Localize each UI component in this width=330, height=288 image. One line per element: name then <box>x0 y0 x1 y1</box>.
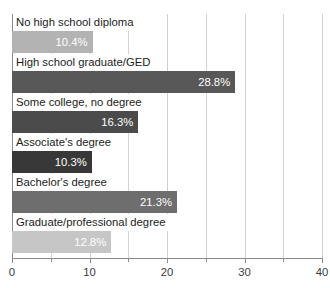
category-label: Graduate/professional degree <box>15 214 168 231</box>
plot-area: No high school diploma10.4%High school g… <box>12 14 322 258</box>
bar-value-label: 10.3% <box>55 151 87 173</box>
tick-label-20: 20 <box>161 266 174 278</box>
bar-row: High school graduate/GED28.8% <box>12 54 322 94</box>
bar-row: Some college, no degree16.3% <box>12 94 322 134</box>
tick-0 <box>12 258 13 263</box>
bar-row: Associate's degree10.3% <box>12 134 322 174</box>
bar-value-label: 16.3% <box>101 111 133 133</box>
category-label: Bachelor's degree <box>15 174 110 191</box>
bar-value-label: 28.8% <box>198 71 230 93</box>
bar-value-label: 21.3% <box>140 191 172 213</box>
tick-label-10: 10 <box>83 266 96 278</box>
tick-20 <box>167 258 168 263</box>
tick-40 <box>322 258 323 263</box>
bar-chart: No high school diploma10.4%High school g… <box>0 0 330 288</box>
category-label: No high school diploma <box>15 14 136 31</box>
tick-30 <box>245 258 246 263</box>
bar: 21.3% <box>12 191 177 213</box>
tick-label-40: 40 <box>316 266 329 278</box>
tick-10 <box>90 258 91 263</box>
category-label: Associate's degree <box>15 134 114 151</box>
bar-value-label: 10.4% <box>56 31 88 53</box>
bar-row: Graduate/professional degree12.8% <box>12 214 322 254</box>
tick-label-0: 0 <box>9 266 15 278</box>
tick-15 <box>128 258 129 262</box>
bar: 16.3% <box>12 111 138 133</box>
bar-value-label: 12.8% <box>74 231 106 253</box>
bar: 10.3% <box>12 151 92 173</box>
tick-label-30: 30 <box>238 266 251 278</box>
bar: 12.8% <box>12 231 111 253</box>
tick-25 <box>206 258 207 262</box>
x-axis: 010203040 <box>12 258 322 288</box>
category-label: High school graduate/GED <box>15 54 153 71</box>
bar: 28.8% <box>12 71 235 93</box>
bar-row: No high school diploma10.4% <box>12 14 322 54</box>
category-label: Some college, no degree <box>15 94 145 111</box>
gridline-40 <box>322 14 323 258</box>
bar: 10.4% <box>12 31 93 53</box>
bar-row: Bachelor's degree21.3% <box>12 174 322 214</box>
tick-5 <box>51 258 52 262</box>
tick-35 <box>283 258 284 262</box>
